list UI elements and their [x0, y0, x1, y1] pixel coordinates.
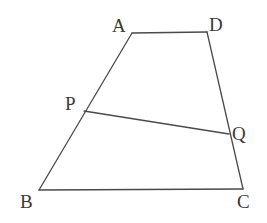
- segment-DC: [207, 32, 243, 189]
- segment-PQ: [84, 111, 229, 134]
- segment-AD: [132, 32, 207, 33]
- vertex-label-D: D: [209, 15, 223, 34]
- geometry-canvas: [0, 0, 267, 223]
- vertex-label-A: A: [112, 16, 126, 35]
- transversal-group: [84, 111, 229, 134]
- vertex-label-Q: Q: [232, 124, 246, 143]
- segment-BC: [39, 189, 243, 190]
- vertex-label-P: P: [65, 94, 76, 113]
- geometry-figure: A D B C P Q: [0, 0, 267, 223]
- vertex-label-C: C: [237, 192, 250, 211]
- vertex-label-B: B: [20, 192, 33, 211]
